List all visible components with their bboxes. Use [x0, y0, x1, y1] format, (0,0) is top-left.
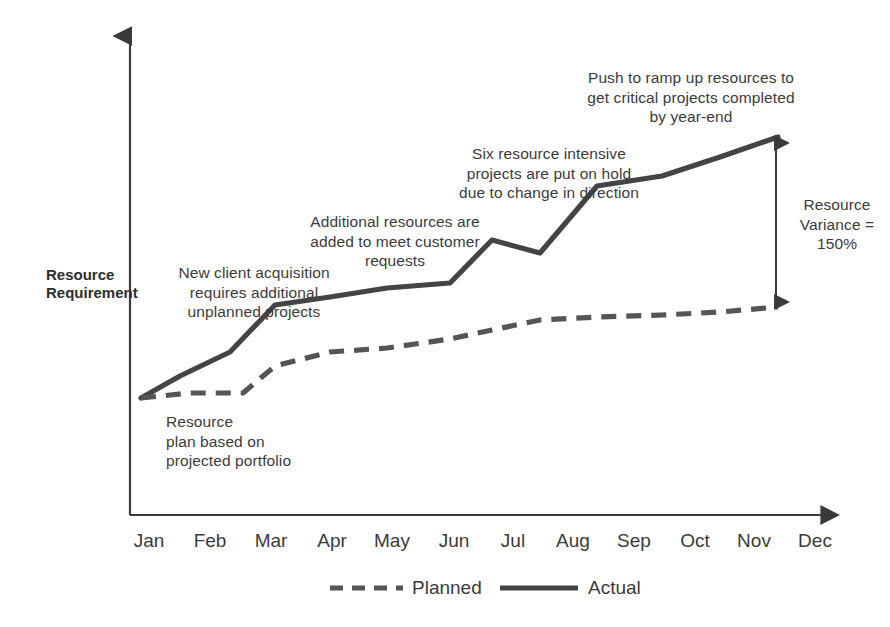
x-tick-aug: Aug — [543, 530, 603, 552]
annotation-additional-resources: Additional resources are added to meet c… — [283, 212, 507, 271]
x-tick-feb: Feb — [180, 530, 240, 552]
x-tick-jan: Jan — [119, 530, 179, 552]
x-tick-may: May — [362, 530, 422, 552]
x-tick-dec: Dec — [785, 530, 845, 552]
annotation-push-to-ramp-up: Push to ramp up resources to get critica… — [548, 68, 834, 127]
annotation-new-client-acquisition: New client acquisition requires addition… — [147, 263, 361, 322]
y-axis-title-line1: Resource — [46, 266, 114, 283]
legend-label-actual: Actual — [588, 577, 641, 599]
x-tick-mar: Mar — [241, 530, 301, 552]
annotation-six-resource-intensive: Six resource intensive projects are put … — [428, 144, 670, 203]
chart-canvas: ResourceRequirement Jan Feb Mar Apr May … — [0, 0, 890, 627]
y-axis-title: ResourceRequirement — [46, 266, 132, 302]
legend-label-planned: Planned — [412, 577, 482, 599]
x-tick-oct: Oct — [665, 530, 725, 552]
y-axis-title-line2: Requirement — [46, 284, 138, 301]
x-tick-jun: Jun — [424, 530, 484, 552]
x-tick-sep: Sep — [604, 530, 664, 552]
x-tick-apr: Apr — [302, 530, 362, 552]
annotation-resource-plan: Resource plan based on projected portfol… — [166, 412, 291, 471]
x-tick-nov: Nov — [724, 530, 784, 552]
x-tick-jul: Jul — [483, 530, 543, 552]
annotation-resource-variance: Resource Variance = 150% — [789, 195, 885, 254]
